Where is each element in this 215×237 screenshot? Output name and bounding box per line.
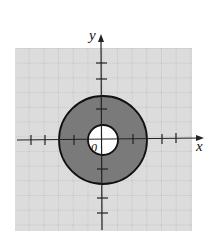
x-axis-label: x [195,138,203,154]
y-axis-arrow-icon [98,34,104,42]
y-axis-label: y [87,27,96,43]
annulus-plot: y x 0 [0,0,215,237]
origin-label: 0 [91,141,97,155]
